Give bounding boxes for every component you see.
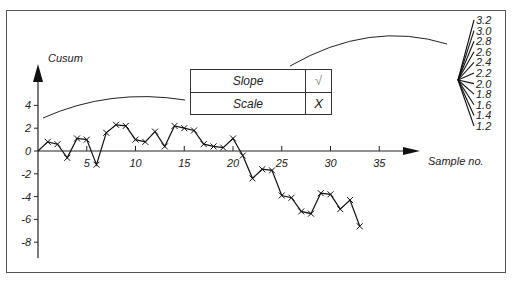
key-row-slope: Slope √: [191, 70, 331, 93]
x-marker-icon: [337, 206, 343, 212]
key-label: Scale: [191, 93, 306, 115]
key-row-scale: Scale X: [191, 93, 331, 115]
cross-mark: X: [306, 93, 331, 115]
x-tick-label: 30: [324, 157, 337, 169]
x-axis-label: Sample no.: [428, 155, 484, 167]
slope-label: 1.2: [476, 120, 491, 132]
x-marker-icon: [347, 197, 353, 203]
x-tick-label: 20: [226, 157, 240, 169]
x-marker-icon: [162, 143, 168, 149]
x-marker-icon: [230, 135, 236, 141]
x-tick-label: 10: [129, 157, 142, 169]
x-marker-icon: [103, 130, 109, 136]
x-marker-icon: [250, 175, 256, 181]
x-tick-label: 35: [373, 157, 386, 169]
key-table: Slope √ Scale X: [190, 69, 332, 115]
check-mark: √: [306, 70, 331, 92]
y-tick-label: -6: [21, 213, 32, 225]
x-axis-arrow-icon: [403, 147, 420, 155]
x-marker-icon: [240, 153, 246, 159]
key-label: Slope: [191, 70, 306, 92]
x-marker-icon: [64, 155, 70, 161]
y-tick-label: 0: [25, 145, 32, 157]
y-tick-label: 4: [25, 99, 31, 111]
x-tick-label: 15: [178, 157, 191, 169]
y-axis-arrow-icon: [33, 64, 43, 82]
x-marker-icon: [94, 162, 100, 168]
y-tick-label: 2: [24, 122, 31, 134]
x-tick-label: 5: [84, 157, 91, 169]
x-marker-icon: [152, 129, 158, 135]
y-axis-label: Cusum: [48, 52, 83, 64]
x-tick-label: 25: [275, 157, 289, 169]
y-tick-label: -8: [21, 236, 32, 248]
connector-curve: [290, 36, 447, 66]
connector-curve: [43, 97, 185, 118]
x-marker-icon: [357, 223, 363, 229]
y-tick-label: -4: [21, 191, 31, 203]
cusum-chart: CusumSample no.420-2-4-6-851015202530353…: [0, 0, 515, 281]
y-tick-label: -2: [21, 168, 31, 180]
